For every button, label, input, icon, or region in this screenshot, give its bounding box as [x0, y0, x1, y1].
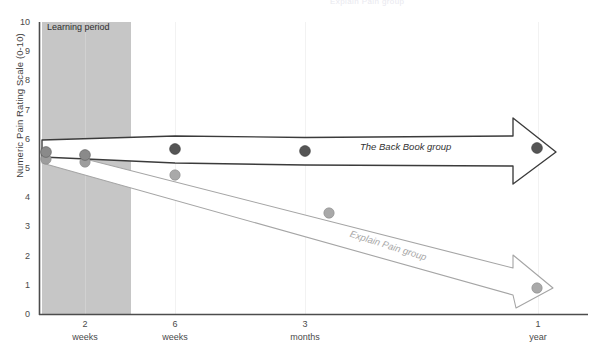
y-tick-label: 0: [8, 309, 30, 319]
learning-period-label: Learning period: [47, 22, 110, 32]
y-tick-label: 7: [8, 105, 30, 115]
y-tick-label: 9: [8, 46, 30, 56]
y-tick-label: 3: [8, 221, 30, 231]
y-tick-label: 8: [8, 75, 30, 85]
x-tick-unit: year: [493, 331, 583, 344]
y-tick-label: 5: [8, 163, 30, 173]
x-tick-unit: weeks: [40, 331, 130, 344]
data-point-back-book: [170, 144, 181, 155]
x-tick-number: 1: [493, 318, 583, 331]
x-tick-number: 6: [130, 318, 220, 331]
data-point-back-book: [532, 143, 543, 154]
data-point-explain-pain: [170, 170, 180, 180]
data-point-explain-pain: [532, 283, 542, 293]
data-point-back-book: [80, 150, 91, 161]
x-tick-2-weeks: 2 weeks: [40, 318, 130, 343]
x-tick-3-months: 3 months: [260, 318, 350, 343]
x-tick-unit: months: [260, 331, 350, 344]
x-tick-1-year: 1 year: [493, 318, 583, 343]
y-tick-label: 2: [8, 251, 30, 261]
top-cutoff-note: Explain Pain group: [330, 0, 404, 6]
y-tick-label: 1: [8, 280, 30, 290]
pain-rating-chart: Explain Pain group Numeric Pain Rating S…: [0, 0, 595, 347]
x-tick-unit: weeks: [130, 331, 220, 344]
y-tick-label: 4: [8, 192, 30, 202]
series-label-back-book-group: The Back Book group: [360, 141, 451, 152]
y-tick-label: 10: [8, 17, 30, 27]
data-point-explain-pain: [324, 208, 334, 218]
x-tick-number: 3: [260, 318, 350, 331]
data-point-back-book: [300, 146, 311, 157]
x-tick-6-weeks: 6 weeks: [130, 318, 220, 343]
y-tick-label: 6: [8, 134, 30, 144]
data-point-back-book: [41, 147, 52, 158]
chart-canvas: [0, 0, 595, 347]
x-tick-number: 2: [40, 318, 130, 331]
